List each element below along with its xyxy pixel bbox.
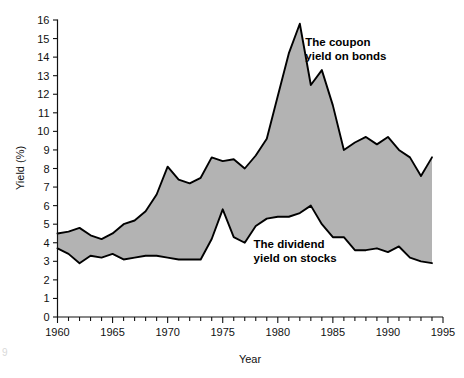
y-tick-label: 5 — [43, 218, 49, 230]
yield-comparison-area-chart: 012345678910111213141516 196019651970197… — [0, 0, 464, 378]
x-tick-label: 1970 — [155, 326, 179, 338]
y-tick-label: 15 — [37, 33, 49, 45]
annotation-line: The dividend — [254, 238, 325, 250]
annotation-line: yield on stocks — [254, 252, 337, 264]
page-corner-mark: 9 — [2, 347, 8, 358]
y-tick-label: 4 — [43, 237, 49, 249]
y-tick-label: 11 — [38, 107, 49, 119]
y-tick-label: 7 — [43, 181, 49, 193]
y-tick-label: 14 — [37, 51, 49, 63]
x-tick-label: 1975 — [210, 326, 234, 338]
y-tick-label: 13 — [37, 70, 49, 82]
x-axis-title: Year — [239, 353, 262, 365]
y-tick-label: 0 — [43, 311, 49, 323]
y-tick-label: 3 — [43, 255, 49, 267]
x-tick-label: 1990 — [376, 326, 400, 338]
y-tick-label: 16 — [37, 14, 49, 26]
y-tick-label: 1 — [43, 292, 49, 304]
annotation-line: The coupon — [305, 36, 370, 48]
y-tick-label: 2 — [43, 274, 49, 286]
annotation-line: yield on bonds — [305, 50, 386, 62]
chart-container: 012345678910111213141516 196019651970197… — [0, 0, 464, 378]
x-tick-label: 1960 — [45, 326, 69, 338]
y-tick-label: 10 — [37, 125, 49, 137]
y-tick-label: 9 — [43, 144, 49, 156]
x-tick-label: 1965 — [100, 326, 124, 338]
y-tick-label: 12 — [37, 88, 49, 100]
x-tick-label: 1995 — [431, 326, 455, 338]
x-tick-label: 1980 — [266, 326, 290, 338]
x-tick-label: 1985 — [321, 326, 345, 338]
y-tick-label: 6 — [43, 200, 49, 212]
y-axis-title: Yield (%) — [14, 146, 26, 190]
y-tick-label: 8 — [43, 163, 49, 175]
